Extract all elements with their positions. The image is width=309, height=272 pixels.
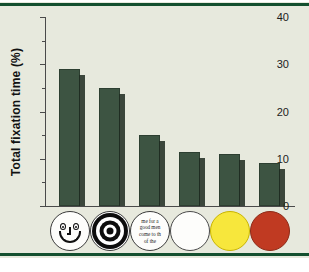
newsprint-line-4: of the	[144, 238, 156, 245]
bar-white	[179, 152, 200, 206]
red-disc-icon	[250, 211, 290, 251]
category-newsprint: me for a good men come to th of the	[130, 210, 170, 252]
figure-panel: Total fixation time (%) 0 10 20 30 40	[0, 0, 309, 272]
bar-shadow	[119, 94, 125, 206]
y-tick-0	[40, 206, 45, 207]
category-icon-row: me for a good men come to th of the	[45, 209, 297, 255]
smiley-face-icon	[50, 211, 90, 251]
y-axis-line	[45, 17, 46, 206]
y-tick-minor-15	[42, 135, 45, 136]
category-face	[50, 210, 90, 252]
y-tick-label-30: 30	[277, 58, 289, 70]
newsprint-text-icon: me for a good men come to th of the	[130, 211, 170, 251]
newsprint-line-1: me for a	[141, 218, 158, 225]
y-tick-40	[40, 17, 45, 18]
ring-5	[107, 228, 114, 235]
white-disc-icon	[170, 211, 210, 251]
y-tick-minor-25	[42, 88, 45, 89]
y-tick-20	[40, 112, 45, 113]
top-rule	[0, 3, 309, 6]
y-tick-30	[40, 64, 45, 65]
yellow-disc-icon	[210, 211, 250, 251]
bar-red	[259, 163, 280, 206]
category-white	[170, 210, 210, 252]
category-bullseye	[90, 210, 130, 252]
bar-shadow	[239, 160, 245, 206]
bar-shadow	[159, 141, 165, 206]
category-red	[250, 210, 290, 252]
bar-newsprint	[139, 135, 160, 206]
bar-face	[59, 69, 80, 206]
bar-shadow	[279, 169, 285, 206]
y-tick-label-40: 40	[277, 11, 289, 23]
concentric-circles-icon	[90, 211, 130, 251]
mouth	[59, 231, 81, 243]
y-axis-label-wrap: Total fixation time (%)	[6, 17, 26, 206]
x-axis-line	[45, 206, 295, 207]
y-tick-minor-5	[42, 182, 45, 183]
category-yellow	[210, 210, 250, 252]
bar-bullseye	[99, 88, 120, 206]
plot-area: 0 10 20 30 40	[45, 17, 297, 206]
y-axis-label: Total fixation time (%)	[9, 47, 23, 175]
y-tick-10	[40, 159, 45, 160]
newsprint-line-3: come to th	[139, 231, 161, 238]
bar-yellow	[219, 154, 240, 206]
y-tick-minor-35	[42, 41, 45, 42]
bar-shadow	[199, 158, 205, 206]
y-tick-label-20: 20	[277, 106, 289, 118]
newsprint-line-2: good men	[140, 224, 161, 231]
newsprint-text: me for a good men come to th of the	[131, 212, 169, 250]
bar-shadow	[79, 75, 85, 206]
